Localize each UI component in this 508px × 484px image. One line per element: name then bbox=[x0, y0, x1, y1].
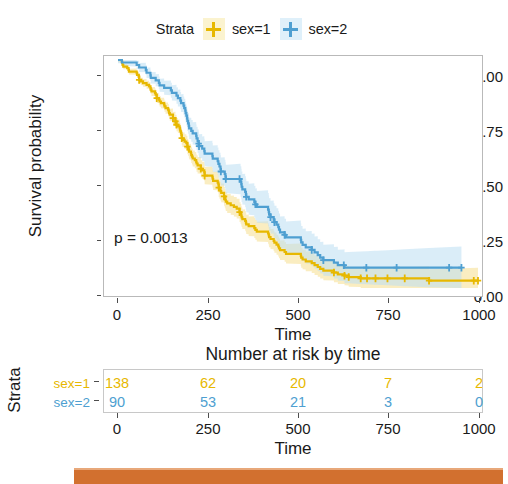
legend-entry-sex-2[interactable]: sex=2 bbox=[280, 18, 348, 40]
risk-cell: 7 bbox=[353, 376, 423, 391]
plus-marker-icon bbox=[203, 18, 225, 40]
legend: Strata sex=1 sex=2 bbox=[0, 16, 503, 42]
x-tick-mark bbox=[208, 298, 209, 303]
x-tick-mark bbox=[479, 298, 480, 303]
risk-cell: 138 bbox=[82, 376, 152, 391]
legend-label-sex-1: sex=1 bbox=[232, 21, 271, 37]
risk-x-tick-label-500: 500 bbox=[263, 420, 333, 437]
risk-x-tick-mark bbox=[479, 413, 480, 418]
risk-x-tick-mark bbox=[298, 413, 299, 418]
risk-cell: 3 bbox=[353, 395, 423, 410]
bottom-accent-bar bbox=[74, 468, 503, 484]
legend-title: Strata bbox=[156, 21, 194, 37]
risk-x-axis-label: Time bbox=[103, 439, 483, 459]
x-tick-mark bbox=[388, 298, 389, 303]
km-curves-svg bbox=[104, 56, 482, 296]
x-axis-label: Time bbox=[103, 325, 483, 345]
risk-cell: 62 bbox=[173, 376, 243, 391]
risk-cell: 21 bbox=[263, 395, 333, 410]
legend-entry-sex-1[interactable]: sex=1 bbox=[203, 18, 271, 40]
y-tick-mark bbox=[97, 75, 101, 76]
risk-table: Number at risk by time Strata sex=1 sex=… bbox=[0, 344, 503, 464]
risk-x-tick-label-750: 750 bbox=[353, 420, 423, 437]
risk-cell: 0 bbox=[444, 395, 508, 410]
risk-x-tick-mark bbox=[208, 413, 209, 418]
x-tick-label-0: 0 bbox=[82, 306, 152, 323]
x-tick-label-1000: 1000 bbox=[444, 306, 508, 323]
risk-x-tick-mark bbox=[117, 413, 118, 418]
risk-x-tick-mark bbox=[388, 413, 389, 418]
legend-label-sex-2: sex=2 bbox=[309, 21, 348, 37]
risk-cell: 53 bbox=[173, 395, 243, 410]
y-tick-mark bbox=[97, 185, 101, 186]
risk-cell: 20 bbox=[263, 376, 333, 391]
risk-x-tick-label-0: 0 bbox=[82, 420, 152, 437]
risk-cell: 90 bbox=[82, 395, 152, 410]
x-tick-label-750: 750 bbox=[353, 306, 423, 323]
y-tick-mark bbox=[97, 295, 101, 296]
y-tick-mark bbox=[97, 130, 101, 131]
x-tick-label-250: 250 bbox=[173, 306, 243, 323]
x-tick-mark bbox=[117, 298, 118, 303]
p-value-annotation: p = 0.0013 bbox=[114, 229, 188, 247]
plot-panel bbox=[103, 55, 483, 297]
x-tick-mark bbox=[298, 298, 299, 303]
x-tick-label-500: 500 bbox=[263, 306, 333, 323]
risk-table-title: Number at risk by time bbox=[103, 344, 483, 365]
risk-strata-axis-label: Strata bbox=[5, 357, 25, 423]
km-plot: Survival probability 1.00 0.75 0.50 0.25… bbox=[0, 44, 503, 340]
plus-marker-icon bbox=[280, 18, 302, 40]
y-tick-mark bbox=[97, 240, 101, 241]
risk-x-tick-label-250: 250 bbox=[173, 420, 243, 437]
y-axis-label: Survival probability bbox=[26, 46, 46, 286]
risk-x-tick-label-1000: 1000 bbox=[444, 420, 508, 437]
risk-cell: 2 bbox=[444, 376, 508, 391]
